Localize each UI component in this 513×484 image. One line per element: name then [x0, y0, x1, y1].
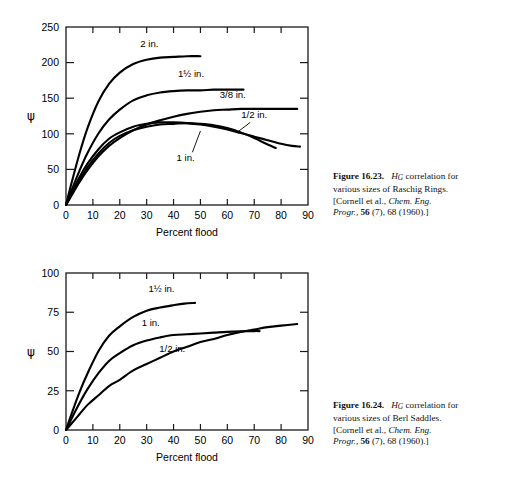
curve-label-leader	[192, 131, 200, 152]
x-tick-label: 30	[141, 434, 153, 446]
y-tick-label: 0	[53, 424, 59, 436]
caption-line4-journal: Progr.,	[333, 436, 358, 446]
caption-line2: various sizes of Berl Saddles.	[333, 413, 441, 423]
curve-label: 1½ in.	[178, 68, 204, 79]
caption-figure-label: Figure 16.24.	[333, 400, 384, 410]
x-tick-label: 20	[114, 434, 126, 446]
x-tick-label: 10	[87, 434, 99, 446]
curve-1-1-2-in-	[66, 303, 195, 430]
y-tick-label: 75	[47, 306, 59, 318]
figure-16-24-caption: Figure 16.24.HG correlation for various …	[333, 400, 509, 448]
y-tick-label: 50	[47, 163, 59, 175]
caption-line3-journal: Chem. Eng.	[388, 196, 431, 206]
x-tick-label: 70	[248, 209, 260, 221]
x-tick-label: 50	[195, 209, 207, 221]
caption-line4-rest: (7), 68 (1960).]	[372, 436, 429, 446]
plot-frame	[66, 27, 308, 205]
caption-line1-rest: correlation for	[406, 171, 459, 181]
curve-1-2-in-	[66, 122, 300, 205]
x-tick-label: 0	[63, 434, 69, 446]
caption-line3-prefix: [Cornell et al.,	[333, 425, 386, 435]
chart-raschig-rings: 01020304050607080900501001502002502 in.1…	[0, 0, 330, 240]
curve-label: 1/2 in.	[241, 109, 267, 120]
y-axis-title: ψ	[27, 109, 35, 123]
caption-symbol: H	[391, 400, 398, 410]
curve-label: 1/2 in.	[159, 343, 185, 354]
x-tick-label: 70	[248, 434, 260, 446]
x-tick-label: 40	[168, 209, 180, 221]
x-tick-label: 10	[87, 209, 99, 221]
y-tick-label: 250	[41, 21, 59, 33]
chart-berl-saddles: 010203040506070809002550751001½ in.1 in.…	[0, 258, 330, 484]
x-tick-label: 80	[275, 434, 287, 446]
x-tick-label: 60	[221, 209, 233, 221]
curve-label: 3/8 in.	[220, 89, 246, 100]
figure-16-23-caption: Figure 16.23.HG correlation for various …	[333, 171, 509, 219]
caption-line1-rest: correlation for	[406, 400, 459, 410]
x-tick-label: 90	[302, 434, 314, 446]
figure-16-24: 010203040506070809002550751001½ in.1 in.…	[0, 258, 330, 484]
y-tick-label: 200	[41, 56, 59, 68]
x-tick-label: 90	[302, 209, 314, 221]
x-tick-label: 80	[275, 209, 287, 221]
x-tick-label: 0	[63, 209, 69, 221]
curve-1-1-2-in-	[66, 90, 243, 205]
caption-line3-prefix: [Cornell et al.,	[333, 196, 386, 206]
y-tick-label: 100	[41, 267, 59, 279]
caption-line3-journal: Chem. Eng.	[388, 425, 431, 435]
x-axis-title: Percent flood	[156, 226, 218, 238]
y-tick-label: 25	[47, 385, 59, 397]
x-tick-label: 30	[141, 209, 153, 221]
caption-figure-label: Figure 16.23.	[333, 171, 384, 181]
caption-line4-volume: 56	[360, 436, 369, 446]
y-axis-title: ψ	[27, 345, 35, 359]
y-tick-label: 150	[41, 92, 59, 104]
curve-label: 1 in.	[142, 317, 160, 328]
caption-line4-volume: 56	[360, 207, 369, 217]
curve-label: 1 in.	[177, 152, 195, 163]
curve-label-leader	[238, 122, 250, 131]
caption-line4-journal: Progr.,	[333, 207, 358, 217]
caption-symbol: H	[391, 171, 398, 181]
curve-label: 2 in.	[140, 38, 158, 49]
caption-symbol-subscript: G	[398, 402, 403, 411]
x-axis-title: Percent flood	[156, 451, 218, 463]
x-tick-label: 50	[195, 434, 207, 446]
y-tick-label: 50	[47, 345, 59, 357]
curve-label: 1½ in.	[148, 283, 174, 294]
x-tick-label: 20	[114, 209, 126, 221]
caption-symbol-subscript: G	[398, 173, 403, 182]
y-tick-label: 0	[53, 199, 59, 211]
plot-frame	[66, 273, 308, 430]
curve-1-2-in-	[66, 324, 297, 430]
y-tick-label: 100	[41, 128, 59, 140]
caption-line2: various sizes of Raschig Rings.	[333, 184, 448, 194]
x-tick-label: 60	[221, 434, 233, 446]
x-tick-label: 40	[168, 434, 180, 446]
figure-16-23: 01020304050607080900501001502002502 in.1…	[0, 0, 330, 240]
caption-line4-rest: (7), 68 (1960).]	[372, 207, 429, 217]
